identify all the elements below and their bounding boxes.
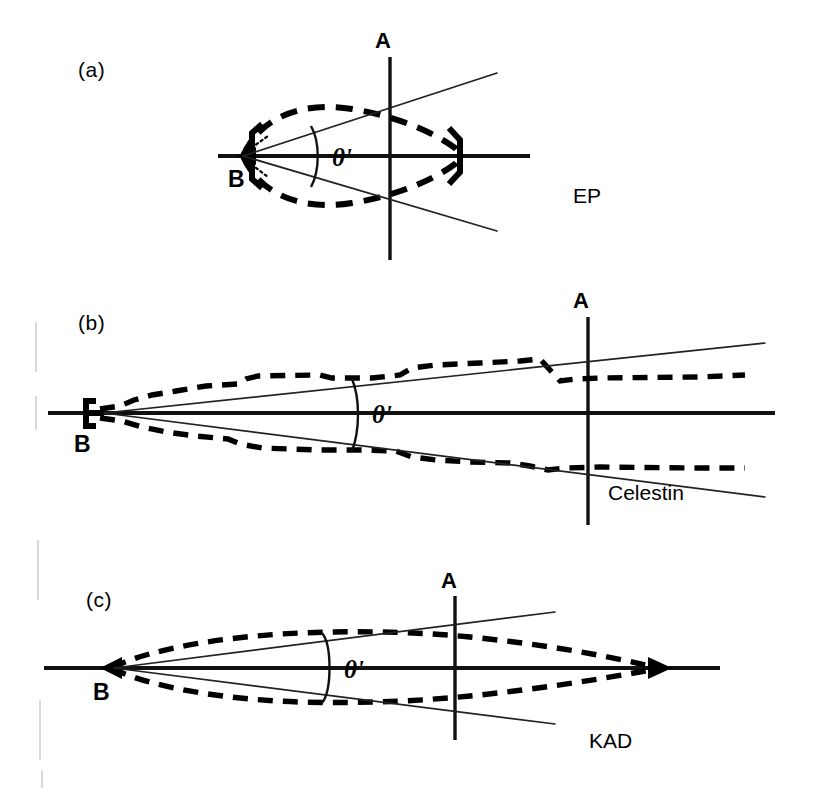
device-label-celestin: Celestin <box>608 481 684 504</box>
panel-label-b: (b) <box>78 311 105 334</box>
contour-lower-c <box>112 668 660 703</box>
panel-a: (a) A B θ' EP <box>78 28 601 260</box>
diagram-canvas: (a) A B θ' EP (b) A <box>0 0 825 793</box>
device-label-kad: KAD <box>589 729 632 752</box>
contour-upper-a <box>243 107 462 156</box>
point-label-b-c: B <box>93 679 110 705</box>
panel-b: (b) A B θ' Celestin <box>48 288 775 525</box>
axis-label-c: A <box>441 568 457 593</box>
angle-label-c: θ' <box>344 656 364 683</box>
point-label-b-a: B <box>228 166 245 192</box>
figure-root: (a) A B θ' EP (b) A <box>0 0 825 793</box>
angle-label-b: θ' <box>372 401 392 428</box>
panel-label-c: (c) <box>86 588 112 611</box>
point-label-b-b: B <box>74 431 91 457</box>
panel-label-a: (a) <box>78 58 105 81</box>
contour-lower-b <box>100 418 745 470</box>
scan-artifacts <box>36 322 42 788</box>
contour-upper-b <box>100 359 745 409</box>
axis-label-b: A <box>573 288 589 313</box>
contour-lower-a <box>243 156 462 205</box>
apex-arrowhead-right-c <box>648 657 672 679</box>
contour-upper-c <box>112 632 660 668</box>
device-label-ep: EP <box>573 184 601 207</box>
angle-label-a: θ' <box>332 144 352 171</box>
axis-label-a: A <box>375 28 391 53</box>
panel-c: (c) A B θ' KAD <box>44 568 720 752</box>
